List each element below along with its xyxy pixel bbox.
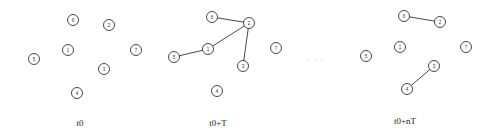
node-3: 3 (429, 61, 440, 72)
node-5: 5 (361, 51, 372, 62)
panel-t0-plus-T: 1234567t0+T (169, 12, 282, 129)
node-6: 6 (399, 11, 410, 22)
panel-t0: 1234567t0 (29, 15, 142, 129)
node-3: 3 (238, 61, 249, 72)
network-evolution-diagram: 1234567t0 1234567t0+T 1234567t0+nT · · · (0, 0, 500, 130)
node-1: 1 (203, 44, 214, 55)
node-3: 3 (99, 64, 110, 75)
node-2: 2 (435, 17, 446, 28)
node-1: 1 (63, 45, 74, 56)
panel-t0-plus-nT: 1234567t0+nT (361, 11, 472, 127)
node-4: 4 (72, 88, 83, 99)
node-6: 6 (207, 12, 218, 23)
time-label: t0+T (209, 118, 227, 128)
edge-2-1 (208, 23, 249, 49)
node-4: 4 (212, 86, 223, 97)
node-6: 6 (68, 15, 79, 26)
time-label: t0 (76, 118, 84, 128)
ellipsis-separator: · · · (308, 56, 325, 62)
node-4: 4 (402, 84, 413, 95)
node-1: 1 (395, 42, 406, 53)
node-5: 5 (169, 52, 180, 63)
time-label: t0+nT (394, 116, 417, 126)
node-2: 2 (244, 18, 255, 29)
node-5: 5 (29, 54, 40, 65)
node-7: 7 (271, 43, 282, 54)
node-7: 7 (461, 42, 472, 53)
node-7: 7 (131, 45, 142, 56)
node-2: 2 (104, 20, 115, 31)
edge-2-3 (243, 23, 249, 66)
